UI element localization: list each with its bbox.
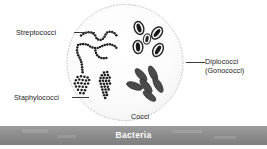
bacteria-figure: Streptococci Staphylococci Diplococci (G… <box>0 0 267 149</box>
leader-line-staphylococci <box>72 97 89 98</box>
petri-dish-illustration <box>63 3 187 122</box>
banner-title: Bacteria <box>0 130 267 140</box>
label-staphylococci: Staphylococci <box>14 93 59 102</box>
leader-line-streptococci <box>74 32 95 33</box>
bacteria-banner: Bacteria <box>0 126 267 145</box>
leader-line-diplococci <box>186 62 205 63</box>
label-streptococci: Streptococci <box>16 28 56 37</box>
label-diplococci-line2: (Gonococci) <box>205 66 244 75</box>
label-diplococci-line1: Diplococci <box>205 57 238 66</box>
label-cocci: Cocci <box>131 112 149 121</box>
label-diplococci: Diplococci (Gonococci) <box>205 57 263 75</box>
dish-boundary-circle <box>67 5 183 121</box>
